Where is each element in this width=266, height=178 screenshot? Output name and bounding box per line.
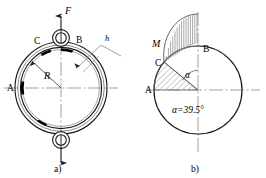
label-force-f: F xyxy=(64,5,72,16)
label-point-c-panel-b: C xyxy=(155,58,161,68)
label-angle-value: α=39.5° xyxy=(172,105,204,115)
label-thickness-h: h xyxy=(105,33,109,43)
engineering-figure: F R h A B C a) xyxy=(0,0,266,178)
caption-panel-b: b) xyxy=(191,164,199,175)
label-angle-symbol: α xyxy=(185,70,191,80)
panel-b: M A B C α α=39.5° b) xyxy=(145,12,260,175)
label-radius-r: R xyxy=(43,70,50,81)
label-point-a-panel-a: A xyxy=(7,83,14,93)
label-moment-m: M xyxy=(151,38,161,49)
panel-a: F R h A B C a) xyxy=(4,5,121,175)
stress-mark-point-a xyxy=(22,82,23,95)
label-point-a-panel-b: A xyxy=(145,85,152,95)
label-point-c-panel-a: C xyxy=(34,36,40,46)
label-point-b-panel-a: B xyxy=(76,35,82,45)
caption-panel-a: a) xyxy=(54,164,61,175)
stress-mark-top-right xyxy=(61,50,73,52)
label-point-b-panel-b: B xyxy=(203,44,209,54)
